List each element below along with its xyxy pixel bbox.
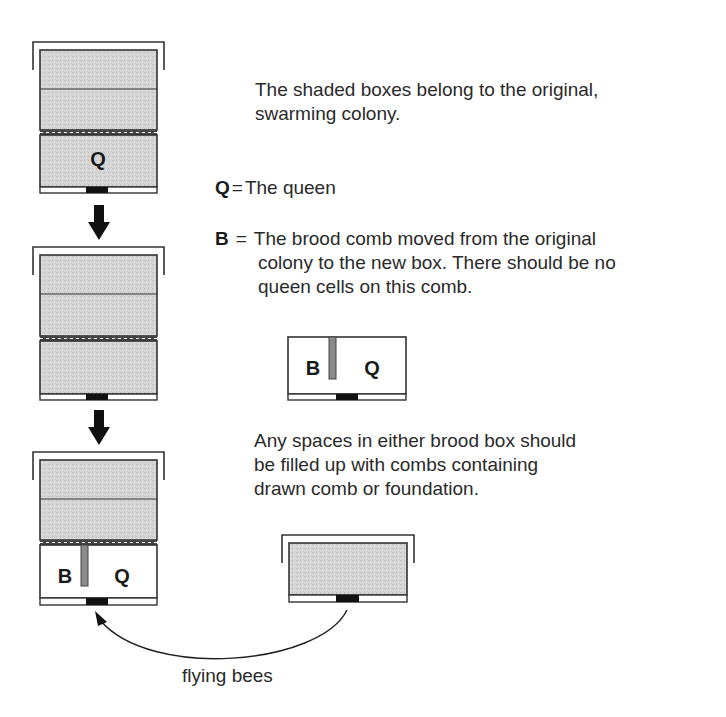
legend-b-eq: = [236, 228, 247, 249]
queen-label: Q [364, 357, 380, 379]
entrance [86, 187, 108, 193]
side-hive [282, 535, 414, 602]
queen-label: Q [90, 148, 106, 170]
down-arrow-icon [88, 205, 110, 240]
hive-step-2 [33, 247, 164, 400]
hive-step-1: Q [33, 42, 164, 193]
spaces-text: Any spaces in either brood box should be… [254, 429, 576, 501]
legend-b-key: B [215, 228, 229, 249]
brood-label: B [58, 565, 72, 587]
legend-q: Q=The queen [215, 176, 336, 200]
flying-bees-arrow [95, 610, 347, 659]
intro-text: The shaded boxes belong to the original,… [255, 78, 598, 126]
legend-q-key: Q [215, 177, 230, 198]
legend-b-def-3: queen cells on this comb. [258, 275, 472, 299]
legend-b-def-2: colony to the new box. There should be n… [258, 251, 616, 275]
legend-q-eq: = [232, 177, 243, 198]
inset-brood-box: B Q [288, 337, 406, 400]
hive-step-3: B Q [33, 452, 164, 605]
intro-line-1: The shaded boxes belong to the original, [255, 78, 598, 102]
queen-label: Q [114, 565, 130, 587]
legend-b-def-1: The brood comb moved from the original [254, 228, 596, 249]
intro-line-2: swarming colony. [255, 102, 598, 126]
spaces-line-3: drawn comb or foundation. [254, 477, 576, 501]
legend-b: B=The brood comb moved from the original [215, 227, 596, 251]
flying-bees-label: flying bees [182, 664, 273, 688]
brood-label: B [306, 357, 320, 379]
brood-comb [81, 545, 88, 586]
down-arrow-icon [88, 410, 110, 445]
spaces-line-2: be filled up with combs containing [254, 453, 576, 477]
spaces-line-1: Any spaces in either brood box should [254, 429, 576, 453]
legend-q-def: The queen [245, 177, 336, 198]
upper-box [40, 50, 157, 130]
